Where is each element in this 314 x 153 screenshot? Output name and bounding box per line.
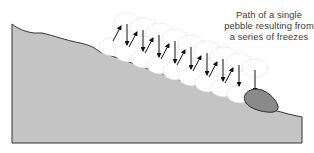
caption-line-1: Path of a single [214, 9, 314, 20]
diagram-caption: Path of a single pebble resulting from a… [214, 9, 314, 42]
caption-line-2: pebble resulting from [214, 20, 314, 31]
caption-line-3: a series of freezes [214, 31, 314, 42]
